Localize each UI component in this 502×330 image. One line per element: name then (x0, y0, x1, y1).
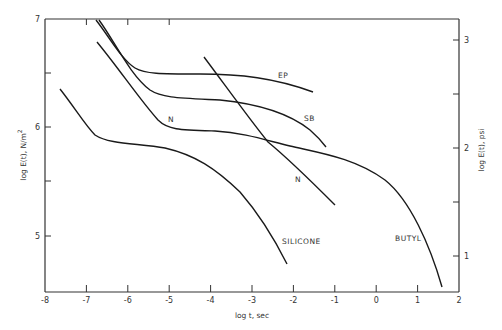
label-ep: EP (278, 71, 288, 80)
y-axis-title-right: log E(t), psi (477, 129, 486, 172)
x-tick-label: 0 (374, 296, 379, 305)
y-left-tick-label: 5 (35, 232, 40, 241)
x-tick-label: -6 (124, 296, 132, 305)
curves (60, 20, 442, 287)
y-right-ticks: 3 2 1 (453, 36, 469, 261)
y-axis-title-left: log E(t), N/m2 (16, 129, 28, 181)
y-right-tick-label: 1 (464, 252, 469, 261)
y-left-tick-label: 6 (35, 123, 40, 132)
label-silicone: SILICONE (282, 237, 321, 246)
svg-text:log E(t), psi: log E(t), psi (477, 129, 486, 172)
x-tick-label: -5 (165, 296, 173, 305)
curve-ep (96, 20, 313, 92)
x-tick-label: -2 (289, 296, 297, 305)
relaxation-modulus-chart: -8 -7 -6 -5 -4 -3 -2 -1 0 1 2 7 6 5 3 2 … (0, 0, 502, 330)
axes (45, 19, 459, 292)
y-right-tick-label: 2 (464, 144, 469, 153)
x-tick-labels: -8 -7 -6 -5 -4 -3 -2 -1 0 1 2 (41, 296, 462, 305)
label-n2: N (295, 175, 301, 184)
curve-sb (99, 20, 326, 147)
y-left-ticks: 7 6 5 (35, 15, 51, 241)
x-tick-label: -3 (248, 296, 256, 305)
x-tick-label: 2 (456, 296, 461, 305)
label-butyl: BUTYL (395, 234, 422, 243)
x-tick-label: -7 (82, 296, 90, 305)
x-tick-label: -8 (41, 296, 49, 305)
x-tick-label: -1 (331, 296, 339, 305)
x-tick-label: 1 (415, 296, 420, 305)
label-n1: N (168, 115, 174, 124)
svg-text:log E(t), N/m2: log E(t), N/m2 (16, 129, 28, 181)
y-right-tick-label: 3 (464, 36, 469, 45)
y-left-tick-label: 7 (35, 15, 40, 24)
x-tick-label: -4 (207, 296, 215, 305)
x-ticks (86, 19, 417, 292)
curve-labels: EP SB N N SILICONE BUTYL (168, 71, 422, 246)
label-sb: SB (304, 114, 315, 123)
curve-n-butyl (97, 42, 442, 287)
x-axis-title: log t, sec (235, 311, 269, 320)
